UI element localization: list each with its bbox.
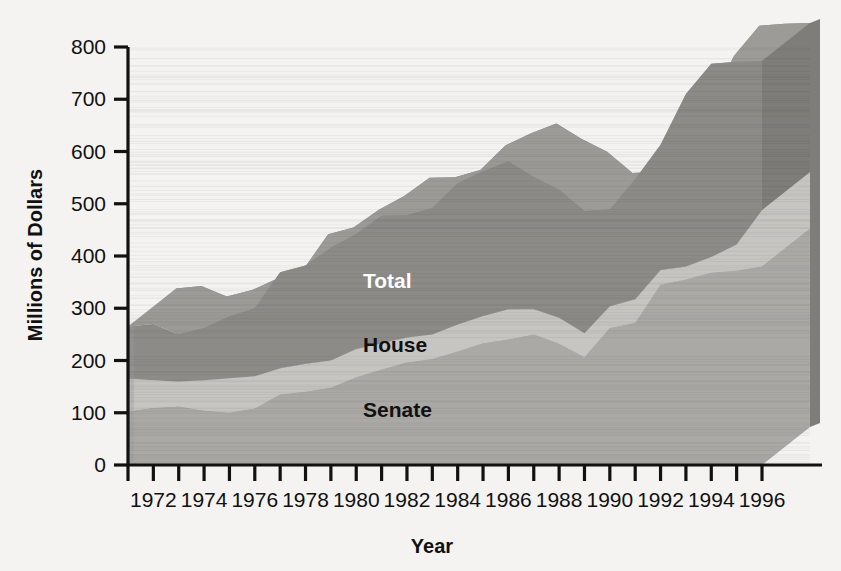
y-tick-label: 500 (71, 192, 106, 215)
x-tick-label: 1972 (130, 488, 177, 511)
x-axis-title: Year (411, 535, 453, 557)
y-tick-label: 600 (71, 140, 106, 163)
series-label-senate: Senate (363, 398, 432, 421)
series-label-house: House (363, 333, 427, 356)
y-axis-title: Millions of Dollars (24, 169, 46, 341)
y-tick-label: 300 (71, 296, 106, 319)
y-tick-label: 800 (71, 35, 106, 58)
x-tick-label: 1978 (282, 488, 329, 511)
y-tick-label: 400 (71, 244, 106, 267)
x-tick-label: 1994 (688, 488, 735, 511)
y-tick-label: 700 (71, 87, 106, 110)
y-tick-label: 200 (71, 349, 106, 372)
chart-root: 0100200300400500600700800 19721974197619… (0, 0, 841, 571)
x-tick-label: 1986 (485, 488, 532, 511)
x-tick-label: 1988 (536, 488, 583, 511)
x-tick-label: 1984 (434, 488, 481, 511)
y-tick-labels: 0100200300400500600700800 (71, 35, 106, 476)
x-tick-label: 1992 (637, 488, 684, 511)
x-tick-label: 1990 (586, 488, 633, 511)
x-tick-label: 1974 (181, 488, 228, 511)
x-tick-label: 1996 (739, 488, 786, 511)
x-tick-label: 1976 (231, 488, 278, 511)
area-chart-3d: 0100200300400500600700800 19721974197619… (0, 0, 841, 571)
slab-outer-edge (810, 19, 820, 427)
series-label-total: Total (363, 269, 412, 292)
y-tick-label: 100 (71, 401, 106, 424)
x-tick-label: 1982 (384, 488, 431, 511)
x-tick-label: 1980 (333, 488, 380, 511)
y-tick-label: 0 (94, 453, 106, 476)
